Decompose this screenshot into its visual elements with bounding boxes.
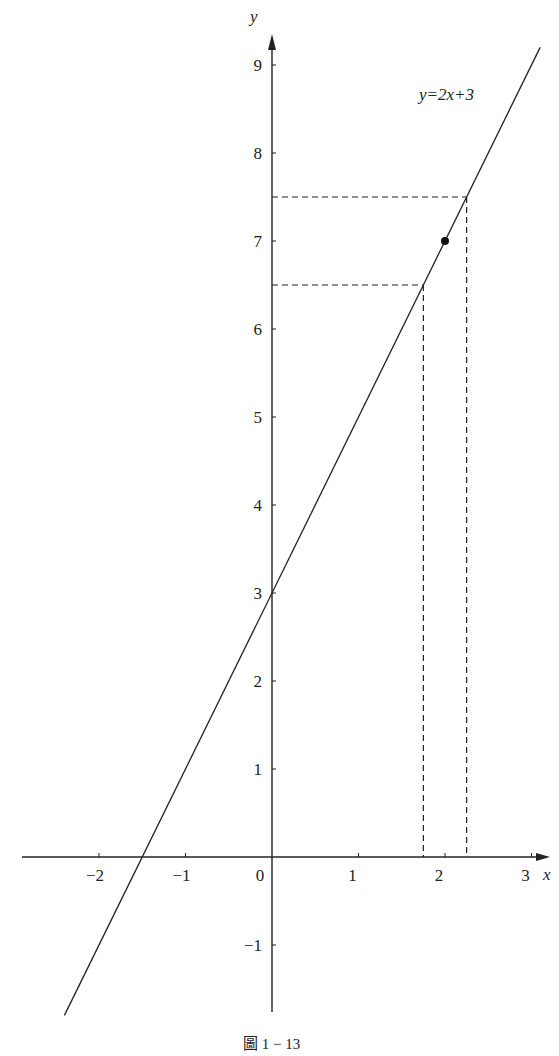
points	[441, 237, 449, 245]
y-axis-label: y	[248, 7, 258, 26]
data-point	[441, 237, 449, 245]
y-tick-label: 7	[254, 232, 263, 251]
dashed-guides	[272, 197, 467, 857]
y-tick-label: 1	[254, 760, 263, 779]
y-tick-label: 9	[254, 56, 263, 75]
figure-caption: 圖 1 − 13	[243, 1036, 300, 1052]
line-y-2x-3	[64, 47, 540, 1015]
chart: −2−10123−1123456789 x y y=2x+3 圖 1 − 13	[0, 0, 559, 1056]
y-tick-label: −1	[244, 936, 262, 955]
y-tick-label: 4	[254, 496, 263, 515]
y-tick-label: 5	[254, 408, 263, 427]
y-tick-label: 2	[254, 672, 263, 691]
x-axis-arrow	[536, 853, 550, 861]
x-tick-label: 1	[348, 866, 357, 885]
x-tick-label: 3	[521, 866, 530, 885]
y-tick-label: 3	[254, 584, 263, 603]
ticks: −2−10123−1123456789	[86, 56, 532, 955]
y-tick-label: 6	[254, 320, 263, 339]
y-tick-label: 8	[254, 144, 263, 163]
y-axis-arrow	[268, 34, 276, 50]
x-tick-label: 0	[256, 866, 265, 885]
x-tick-label: −1	[172, 866, 190, 885]
series	[64, 47, 540, 1015]
x-tick-label: 2	[435, 866, 444, 885]
x-axis-label: x	[542, 865, 551, 884]
line-label: y=2x+3	[417, 85, 474, 104]
x-tick-label: −2	[86, 866, 104, 885]
